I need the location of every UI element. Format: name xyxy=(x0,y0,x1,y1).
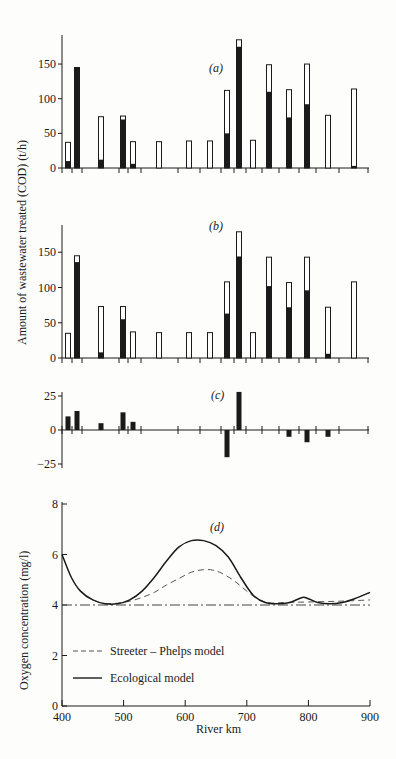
difference-bar xyxy=(75,411,80,430)
difference-bar xyxy=(305,430,310,442)
y-tick-label: 100 xyxy=(38,92,56,106)
y-tick-label: 150 xyxy=(38,245,56,259)
bar-total xyxy=(352,89,357,168)
y-tick-label: 50 xyxy=(44,316,56,330)
bar-filled xyxy=(287,307,292,358)
bar-filled xyxy=(75,262,80,358)
bar-filled xyxy=(225,314,230,358)
bar-filled xyxy=(352,166,357,168)
bar-filled xyxy=(121,119,126,168)
bar-filled xyxy=(75,68,80,168)
bar-filled xyxy=(99,160,104,168)
difference-bar xyxy=(225,430,230,457)
panel-label-c: (c) xyxy=(211,388,224,402)
y-tick-label: 0 xyxy=(50,161,56,175)
bar-filled xyxy=(267,286,272,358)
bar-filled xyxy=(287,117,292,168)
shared-y-axis-title: Amount of wastewater treated (COD) (t/h) xyxy=(15,140,29,345)
panel-label-a: (a) xyxy=(209,61,223,75)
d-x-axis-title: River km xyxy=(196,722,242,736)
y-tick-label: −25 xyxy=(37,457,56,471)
y-tick-label: 0 xyxy=(50,423,56,437)
bar-filled xyxy=(237,47,242,168)
bar-total xyxy=(99,307,104,358)
streeter-phelps-line xyxy=(105,569,370,603)
y-tick-label: 0 xyxy=(50,351,56,365)
y-tick-label: 2 xyxy=(52,649,58,663)
y-tick-label: 25 xyxy=(44,389,56,403)
y-tick-label: 6 xyxy=(52,548,58,562)
bar-total xyxy=(157,333,162,358)
bar-total xyxy=(157,142,162,168)
legend-dashed-label: Streeter – Phelps model xyxy=(110,644,225,658)
bar-total xyxy=(326,115,331,168)
d-y-axis-title: Oxygen concentration (mg/l) xyxy=(17,551,31,690)
bar-filled xyxy=(305,290,310,358)
bar-total xyxy=(352,282,357,358)
difference-bar xyxy=(99,423,104,430)
bar-filled xyxy=(131,164,136,168)
difference-bar xyxy=(326,430,331,437)
bar-total xyxy=(66,333,71,358)
y-tick-label: 50 xyxy=(44,126,56,140)
x-tick-label: 500 xyxy=(115,710,133,724)
x-tick-label: 900 xyxy=(361,710,379,724)
figure-canvas: 050100150 050100150 −25025 0246840050060… xyxy=(0,0,396,759)
bar-total xyxy=(251,140,256,168)
bar-total xyxy=(326,307,331,358)
bar-total xyxy=(208,333,213,358)
bar-filled xyxy=(237,256,242,358)
y-tick-label: 4 xyxy=(52,598,58,612)
y-tick-label: 150 xyxy=(38,57,56,71)
panel-b-bar-chart: 050100150 xyxy=(38,225,369,365)
x-tick-label: 600 xyxy=(176,710,194,724)
y-tick-label: 100 xyxy=(38,281,56,295)
difference-bar xyxy=(287,430,292,437)
bar-filled xyxy=(99,352,104,358)
bar-filled xyxy=(121,319,126,358)
ecological-model-line xyxy=(62,540,370,604)
bar-total xyxy=(131,332,136,358)
bar-filled xyxy=(267,92,272,168)
x-tick-label: 400 xyxy=(53,710,71,724)
legend-solid-label: Ecological model xyxy=(110,671,195,685)
x-tick-label: 800 xyxy=(299,710,317,724)
bar-total xyxy=(251,333,256,358)
bar-total xyxy=(208,141,213,168)
panel-a-bar-chart: 050100150 xyxy=(38,35,369,175)
panel-label-d: (d) xyxy=(210,520,224,534)
bar-filled xyxy=(225,133,230,168)
difference-bar xyxy=(237,392,242,430)
panel-label-b: (b) xyxy=(209,219,223,233)
difference-bar xyxy=(66,416,71,430)
difference-bar xyxy=(121,412,126,430)
bar-total xyxy=(187,333,192,358)
bar-filled xyxy=(326,354,331,358)
y-tick-label: 8 xyxy=(52,497,58,511)
bar-filled xyxy=(66,161,71,168)
legend: Streeter – Phelps model Ecological model xyxy=(73,644,225,685)
bar-filled xyxy=(305,104,310,168)
panel-c-difference-chart: −25025 xyxy=(37,389,369,471)
difference-bar xyxy=(131,422,136,430)
bar-total xyxy=(187,141,192,168)
